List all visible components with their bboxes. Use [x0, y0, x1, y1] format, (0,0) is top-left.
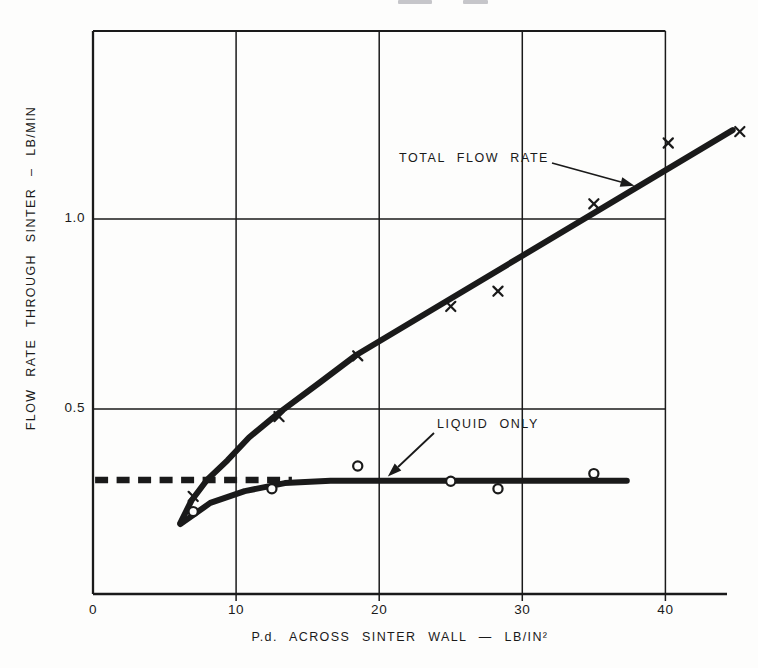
x-tick-label: 10: [214, 602, 258, 617]
x-tick-label: 0: [71, 602, 115, 617]
x-axis-title: P.d. ACROSS SINTER WALL — LB/IN²: [252, 630, 549, 644]
o-marker: [353, 461, 362, 470]
scanned-figure-page: 0102030400.51.0 P.d. ACROSS SINTER WALL …: [0, 0, 758, 668]
x-tick-label: 40: [643, 602, 687, 617]
x-tick-label: 30: [500, 602, 544, 617]
series-curve-o: [180, 481, 627, 524]
o-marker: [589, 469, 598, 478]
o-marker: [446, 477, 455, 486]
o-marker: [493, 484, 502, 493]
x-tick-label: 20: [357, 602, 401, 617]
annotation-liquid-only: LIQUID ONLY: [437, 417, 539, 431]
y-axis-title: FLOW RATE THROUGH SINTER – LB/MIN: [24, 106, 38, 431]
o-marker: [189, 507, 198, 516]
series-curve-x: [180, 130, 732, 523]
annotation-arrow-liquid-only: [398, 433, 434, 467]
annotation-arrow-total-flow-head: [620, 177, 635, 186]
annotation-total-flow-rate: TOTAL FLOW RATE: [399, 151, 549, 165]
annotation-arrow-total-flow: [552, 163, 621, 182]
plot-svg: [0, 0, 758, 668]
o-marker: [267, 484, 276, 493]
